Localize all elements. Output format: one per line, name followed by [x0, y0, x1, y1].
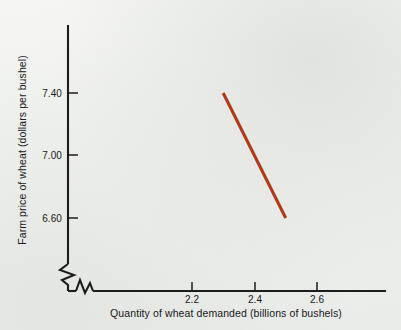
x-axis-title: Quantity of wheat demanded (billions of … — [110, 307, 342, 319]
x-tick-label-2-4: 2.4 — [248, 294, 262, 305]
plot-area — [0, 0, 401, 330]
demand-curve — [223, 93, 286, 218]
x-axis-break-icon — [76, 280, 93, 293]
y-tick-label-7-40: 7.40 — [28, 88, 62, 99]
chart-figure: 7.40 7.00 6.60 2.2 2.4 2.6 Farm price of… — [0, 0, 401, 330]
x-tick-label-2-2: 2.2 — [185, 294, 199, 305]
y-tick-label-7-00: 7.00 — [28, 150, 62, 161]
y-tick-label-6-60: 6.60 — [28, 213, 62, 224]
y-axis-break-icon — [60, 264, 74, 291]
x-tick-label-2-6: 2.6 — [310, 294, 324, 305]
y-axis-title: Farm price of wheat (dollars per bushel) — [16, 55, 28, 245]
